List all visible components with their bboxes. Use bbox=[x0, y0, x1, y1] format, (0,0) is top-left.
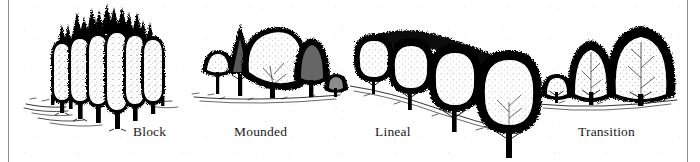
ground-hatching bbox=[192, 91, 340, 103]
illustration-plate: Block bbox=[0, 0, 700, 162]
caption-mounded: Mounded bbox=[234, 124, 287, 140]
figure-block bbox=[22, 0, 197, 162]
left-margin-rule bbox=[8, 0, 9, 162]
caption-block: Block bbox=[133, 124, 166, 140]
caption-transition: Transition bbox=[578, 124, 635, 140]
transition-tree-large bbox=[607, 26, 676, 103]
lineal-tree-1 bbox=[476, 50, 542, 134]
lineal-tree-4 bbox=[354, 34, 394, 82]
lineal-tree-2 bbox=[428, 44, 482, 112]
lineal-tree-3 bbox=[388, 38, 434, 94]
caption-lineal: Lineal bbox=[375, 124, 411, 140]
